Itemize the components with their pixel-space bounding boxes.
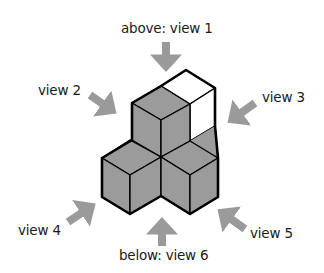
arrow-view2-icon (90, 95, 110, 109)
arrow-view5-icon (224, 214, 245, 229)
label-view6: below: view 6 (119, 249, 208, 263)
diagram-canvas: above: view 1 view 2 view 3 view 4 view … (0, 0, 324, 273)
label-view4: view 4 (18, 224, 61, 238)
arrow-view4-icon (68, 208, 89, 222)
label-view2: view 2 (38, 84, 81, 98)
label-view3: view 3 (262, 91, 305, 105)
arrow-view3-icon (234, 103, 255, 118)
label-view5: view 5 (250, 227, 293, 241)
label-view1: above: view 1 (121, 22, 213, 36)
